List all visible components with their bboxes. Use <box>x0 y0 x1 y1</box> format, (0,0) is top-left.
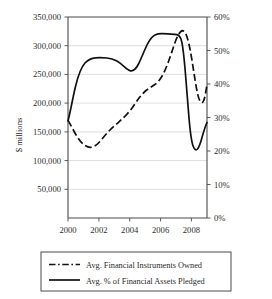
y-left-tick-label: 250,000 <box>33 69 61 79</box>
y-axis-title: $ millions <box>14 117 24 152</box>
x-tick-label: 2000 <box>59 225 76 235</box>
x-tick-label: 2004 <box>121 225 139 235</box>
y-right-tick-label: 10% <box>214 180 230 190</box>
chart-legend: Avg. Financial Instruments Owned Avg. % … <box>41 252 231 291</box>
y-right-tick-label: 50% <box>214 46 230 56</box>
chart-figure: 350,000 300,000 250,000 200,000 150,000 … <box>0 0 272 299</box>
y-left-tick-label: 100,000 <box>33 156 61 166</box>
y-right-tick-label: 60% <box>214 12 230 22</box>
y-right-tick-label: 30% <box>214 113 230 123</box>
y-right-tick-label: 20% <box>214 146 230 156</box>
x-tick-label: 2008 <box>183 225 200 235</box>
legend-label-instruments-owned: Avg. Financial Instruments Owned <box>86 261 203 270</box>
line-chart: 350,000 300,000 250,000 200,000 150,000 … <box>0 0 272 299</box>
legend-label-assets-pledged: Avg. % of Financial Assets Pledged <box>86 277 206 286</box>
y-right-tick-label: 0% <box>214 213 225 223</box>
y-left-tick-label: 200,000 <box>33 98 61 108</box>
y-left-tick-label: 150,000 <box>33 127 61 137</box>
y-right-tick-label: 40% <box>214 79 230 89</box>
y-left-tick-label: 50,000 <box>37 184 61 194</box>
y-left-tick-label: 300,000 <box>33 41 61 51</box>
y-left-tick-label: 350,000 <box>33 12 61 22</box>
x-tick-label: 2006 <box>152 225 170 235</box>
x-tick-label: 2002 <box>90 225 107 235</box>
